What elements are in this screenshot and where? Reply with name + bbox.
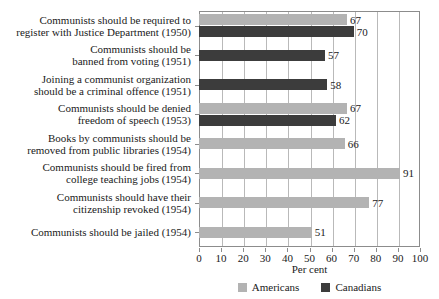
category-label-line: citizenship revoked (1954) (57, 203, 191, 215)
category-label: Communists should be fired fromcollege t… (0, 159, 195, 189)
bar-canadians (199, 79, 327, 90)
bar-americans (199, 14, 347, 25)
bar-row: 6770 (199, 11, 420, 41)
bar-americans (199, 227, 312, 238)
bar-canadians (199, 26, 354, 37)
x-axis-title: Per cent (199, 263, 420, 275)
bar-value-label: 67 (347, 14, 361, 25)
category-label-column: Communists should be required toregister… (0, 11, 195, 247)
bar-value-label: 51 (312, 227, 326, 238)
horizontal-bar-chart: Communists should be required toregister… (0, 0, 439, 299)
category-label: Communists should be required toregister… (0, 11, 195, 41)
bar-value-label: 57 (325, 50, 339, 61)
category-label-line: Communists should be required to (16, 14, 191, 26)
category-label-line: freedom of speech (1953) (58, 114, 191, 126)
category-label-line: Joining a communist organization (34, 73, 191, 85)
bar-value-label: 77 (369, 197, 383, 208)
bar-value-label: 62 (336, 115, 350, 126)
category-label-line: should be a criminal offence (1951) (34, 85, 191, 97)
category-label-line: Communists should be (72, 43, 191, 55)
bar-row: 66 (199, 129, 420, 159)
category-label: Communists should be deniedfreedom of sp… (0, 100, 195, 130)
legend-swatch-icon (238, 283, 247, 292)
legend-label: Canadians (335, 281, 381, 293)
x-axis: 0102030405060708090100 (199, 248, 420, 264)
legend-item-canadians[interactable]: Canadians (321, 281, 381, 293)
bar-row: 6762 (199, 100, 420, 130)
category-label-line: Books by communists should be (27, 132, 191, 144)
bar-row: 58 (199, 70, 420, 100)
bar-row: 77 (199, 188, 420, 218)
category-label-line: Communists should be fired from (43, 161, 192, 173)
bar-rows: 67705758676266917751 (199, 11, 420, 247)
bar-row: 91 (199, 159, 420, 189)
bar-value-label: 66 (345, 138, 359, 149)
bar-row: 51 (199, 218, 420, 248)
category-label-line: removed from public libraries (1954) (27, 144, 191, 156)
bar-value-label: 91 (400, 168, 414, 179)
category-label-line: Communists should be denied (58, 102, 191, 114)
bar-canadians (199, 50, 325, 61)
chart-legend: AmericansCanadians (199, 281, 420, 293)
category-label: Communists should have theircitizenship … (0, 188, 195, 218)
bar-americans (199, 138, 345, 149)
category-label-line: Communists should have their (57, 191, 191, 203)
bar-value-label: 70 (354, 26, 368, 37)
category-label-line: Communists should be jailed (1954) (31, 226, 191, 238)
legend-label: Americans (252, 281, 300, 293)
bar-row: 57 (199, 41, 420, 71)
bar-americans (199, 103, 347, 114)
bar-americans (199, 168, 400, 179)
category-label: Communists should bebanned from voting (… (0, 41, 195, 71)
legend-item-americans[interactable]: Americans (238, 281, 300, 293)
bar-canadians (199, 115, 336, 126)
bar-americans (199, 197, 369, 208)
legend-swatch-icon (321, 283, 330, 292)
bar-value-label: 58 (327, 79, 341, 90)
category-label-line: banned from voting (1951) (72, 55, 191, 67)
category-label: Communists should be jailed (1954) (0, 218, 195, 248)
category-label-line: college teaching jobs (1954) (43, 173, 192, 185)
category-label-line: register with Justice Department (1950) (16, 26, 191, 38)
category-label: Joining a communist organizationshould b… (0, 70, 195, 100)
bar-value-label: 67 (347, 103, 361, 114)
category-label: Books by communists should beremoved fro… (0, 129, 195, 159)
